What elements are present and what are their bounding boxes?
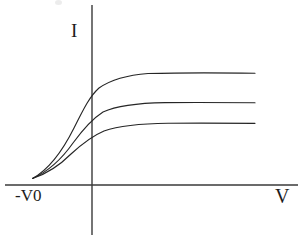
curve-middle	[33, 102, 256, 178]
curve-bottom	[33, 123, 256, 178]
axes-group	[5, 5, 298, 235]
curve-top	[33, 73, 256, 179]
y-axis-label: I	[71, 21, 77, 40]
plot-canvas	[0, 0, 303, 235]
threshold-voltage-label: -V0	[15, 187, 41, 204]
x-axis-label: V	[275, 186, 289, 206]
iv-characteristic-figure: I V -V0	[0, 0, 303, 235]
curves-group	[33, 73, 256, 179]
